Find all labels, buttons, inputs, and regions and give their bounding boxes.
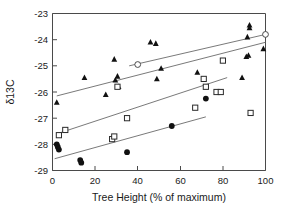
- squares-fit: [57, 78, 227, 134]
- data-point: [248, 110, 253, 115]
- data-point: [124, 116, 129, 121]
- data-point: [201, 76, 206, 81]
- y-axis-title: δ13C: [4, 79, 16, 105]
- x-tick-label-80: 80: [218, 175, 229, 186]
- data-point: [56, 133, 61, 138]
- data-point: [115, 84, 120, 89]
- y-tick-label-m25: -25: [34, 60, 48, 71]
- x-tick-label-0: 0: [50, 175, 55, 186]
- data-point: [112, 134, 117, 139]
- x-tick-label-60: 60: [175, 175, 186, 186]
- y-tick-label-m23: -23: [34, 8, 48, 19]
- data-point: [158, 65, 164, 71]
- scatter-plot: 0 20 40 60 80 100 -23 -24 -25 -26 -27 -2…: [0, 0, 283, 215]
- circles-fit: [55, 117, 206, 159]
- data-point: [220, 58, 225, 63]
- data-point: [154, 76, 160, 82]
- data-point: [203, 96, 209, 102]
- x-tick-label-40: 40: [132, 175, 143, 186]
- x-tick-label-100: 100: [258, 175, 274, 186]
- y-tick-label-m29: -29: [34, 165, 48, 176]
- data-point: [63, 127, 68, 132]
- x-tick-marks: [53, 166, 266, 171]
- data-point: [82, 74, 88, 80]
- x-tick-labels: 0 20 40 60 80 100: [50, 175, 274, 186]
- data-point: [56, 147, 62, 153]
- plot-frame: [53, 14, 266, 171]
- series-filled-circles: [54, 96, 209, 166]
- data-point: [194, 69, 200, 75]
- x-tick-label-20: 20: [90, 175, 101, 186]
- data-point: [54, 99, 60, 105]
- axis-frame: [53, 14, 266, 171]
- data-point: [78, 160, 84, 166]
- y-tick-label-m27: -27: [34, 113, 48, 124]
- data-point: [124, 149, 130, 155]
- data-point: [135, 62, 141, 68]
- data-point: [218, 89, 223, 94]
- data-point: [169, 123, 175, 129]
- chart-figure: 0 20 40 60 80 100 -23 -24 -25 -26 -27 -2…: [0, 0, 283, 215]
- y-tick-label-m26: -26: [34, 87, 48, 98]
- data-point: [263, 32, 269, 38]
- regression-lines: [55, 34, 266, 158]
- y-tick-labels: -23 -24 -25 -26 -27 -28 -29: [34, 8, 48, 176]
- data-point: [111, 56, 117, 62]
- data-point: [203, 84, 208, 89]
- data-point: [148, 39, 154, 45]
- data-point: [115, 73, 121, 79]
- data-point: [153, 40, 159, 46]
- data-point: [239, 74, 245, 80]
- y-tick-label-m24: -24: [34, 34, 48, 45]
- series-filled-triangles: [54, 22, 266, 105]
- data-point: [103, 91, 109, 97]
- data-point: [244, 34, 250, 40]
- data-point: [193, 105, 198, 110]
- x-axis-title: Tree Height (% of maximum): [92, 191, 226, 203]
- y-tick-label-m28: -28: [34, 139, 48, 150]
- data-points: [54, 22, 269, 165]
